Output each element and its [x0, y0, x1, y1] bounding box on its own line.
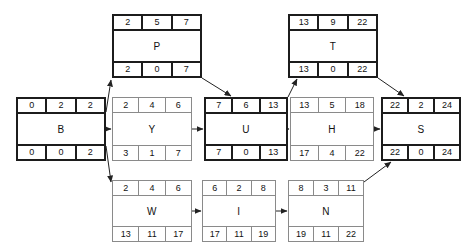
node-b-early-start: 0: [18, 99, 45, 112]
node-s-early-finish: 24: [433, 99, 459, 112]
node-t-duration: 9: [317, 16, 346, 29]
node-p[interactable]: 2 5 7 P 2 0 7: [112, 14, 202, 78]
node-y-slack: 1: [138, 146, 164, 160]
node-h[interactable]: 13 5 18 H 17 4 22: [290, 97, 374, 161]
node-w-early-start: 2: [113, 181, 138, 195]
node-n-label: N: [289, 196, 363, 226]
node-u-late-start: 7: [206, 146, 231, 159]
node-t-slack: 0: [317, 63, 346, 76]
node-u-slack: 0: [231, 146, 258, 159]
node-u-early-start: 7: [206, 99, 231, 112]
node-t-early-start: 13: [290, 16, 317, 29]
node-t-late-start: 13: [290, 63, 317, 76]
node-i-early-finish: 8: [251, 181, 275, 195]
node-y-late-start: 3: [113, 146, 138, 160]
node-w-late-start: 13: [113, 227, 138, 241]
node-t[interactable]: 13 9 22 T 13 0 22: [288, 14, 378, 78]
node-w-label: W: [113, 196, 191, 226]
node-y-early-finish: 6: [165, 98, 191, 112]
node-s-late-start: 22: [383, 146, 407, 159]
node-i-early-start: 6: [203, 181, 226, 195]
node-p-late-start: 2: [114, 63, 141, 76]
node-i-late-start: 17: [203, 227, 226, 241]
node-i[interactable]: 6 2 8 I 17 11 19: [202, 180, 276, 242]
node-i-late-finish: 19: [251, 227, 275, 241]
node-i-label: I: [203, 196, 275, 226]
node-n-top-row: 8 3 11: [289, 181, 363, 196]
node-n[interactable]: 8 3 11 N 19 11 22: [288, 180, 364, 242]
node-y-late-finish: 7: [165, 146, 191, 160]
node-u-early-finish: 13: [259, 99, 286, 112]
node-b-duration: 2: [45, 99, 74, 112]
node-w-early-finish: 6: [165, 181, 191, 195]
node-b-label: B: [18, 114, 104, 144]
node-h-late-finish: 22: [345, 146, 373, 160]
node-n-early-finish: 11: [338, 181, 363, 195]
node-i-bottom-row: 17 11 19: [203, 226, 275, 241]
node-b-bottom-row: 0 0 2: [18, 144, 104, 159]
node-s-top-row: 22 2 24: [383, 99, 459, 114]
node-b-top-row: 0 2 2: [18, 99, 104, 114]
node-w-late-finish: 17: [165, 227, 191, 241]
node-h-late-start: 17: [291, 146, 318, 160]
node-s-early-start: 22: [383, 99, 407, 112]
node-w-bottom-row: 13 11 17: [113, 226, 191, 241]
node-b-late-start: 0: [18, 146, 45, 159]
node-t-top-row: 13 9 22: [290, 16, 376, 31]
node-u-label: U: [206, 114, 286, 144]
node-n-late-finish: 22: [338, 227, 363, 241]
node-w[interactable]: 2 4 6 W 13 11 17: [112, 180, 192, 242]
node-p-top-row: 2 5 7: [114, 16, 200, 31]
node-n-duration: 3: [313, 181, 338, 195]
node-y-duration: 4: [138, 98, 164, 112]
node-y[interactable]: 2 4 6 Y 3 1 7: [112, 97, 192, 161]
node-p-early-start: 2: [114, 16, 141, 29]
node-u[interactable]: 7 6 13 U 7 0 13: [204, 97, 288, 161]
node-p-early-finish: 7: [171, 16, 200, 29]
node-s-label: S: [383, 114, 459, 144]
node-u-top-row: 7 6 13: [206, 99, 286, 114]
node-t-early-finish: 22: [347, 16, 376, 29]
node-n-late-start: 19: [289, 227, 313, 241]
node-y-bottom-row: 3 1 7: [113, 145, 191, 160]
node-t-label: T: [290, 31, 376, 61]
edge-b-to-p: [106, 80, 111, 112]
node-s[interactable]: 22 2 24 S 22 0 24: [381, 97, 461, 161]
node-w-duration: 4: [138, 181, 164, 195]
network-diagram-canvas: 2 5 7 P 2 0 7 13 9 22 T 13 0 22 0 2 2 B: [0, 0, 471, 251]
node-p-label: P: [114, 31, 200, 61]
node-y-label: Y: [113, 113, 191, 145]
node-n-slack: 11: [313, 227, 338, 241]
node-h-slack: 4: [318, 146, 346, 160]
node-u-duration: 6: [231, 99, 258, 112]
node-h-top-row: 13 5 18: [291, 98, 373, 113]
node-p-late-finish: 7: [171, 63, 200, 76]
node-b[interactable]: 0 2 2 B 0 0 2: [16, 97, 106, 161]
node-s-bottom-row: 22 0 24: [383, 144, 459, 159]
node-w-slack: 11: [138, 227, 164, 241]
node-b-slack: 0: [45, 146, 74, 159]
node-b-early-finish: 2: [75, 99, 104, 112]
node-p-bottom-row: 2 0 7: [114, 61, 200, 76]
edge-t-to-s: [378, 78, 404, 96]
node-i-duration: 2: [226, 181, 250, 195]
node-p-slack: 0: [141, 63, 170, 76]
node-h-duration: 5: [318, 98, 346, 112]
node-w-top-row: 2 4 6: [113, 181, 191, 196]
node-u-bottom-row: 7 0 13: [206, 144, 286, 159]
node-i-slack: 11: [226, 227, 250, 241]
node-h-early-finish: 18: [345, 98, 373, 112]
node-s-duration: 2: [407, 99, 433, 112]
node-s-late-finish: 24: [433, 146, 459, 159]
node-y-early-start: 2: [113, 98, 138, 112]
node-n-bottom-row: 19 11 22: [289, 226, 363, 241]
node-n-early-start: 8: [289, 181, 313, 195]
node-b-late-finish: 2: [75, 146, 104, 159]
node-y-top-row: 2 4 6: [113, 98, 191, 113]
node-h-bottom-row: 17 4 22: [291, 145, 373, 160]
node-h-label: H: [291, 113, 373, 145]
edge-p-to-u: [202, 78, 231, 96]
node-s-slack: 0: [407, 146, 433, 159]
edge-n-to-s: [364, 162, 391, 182]
edge-b-to-w: [106, 146, 111, 182]
